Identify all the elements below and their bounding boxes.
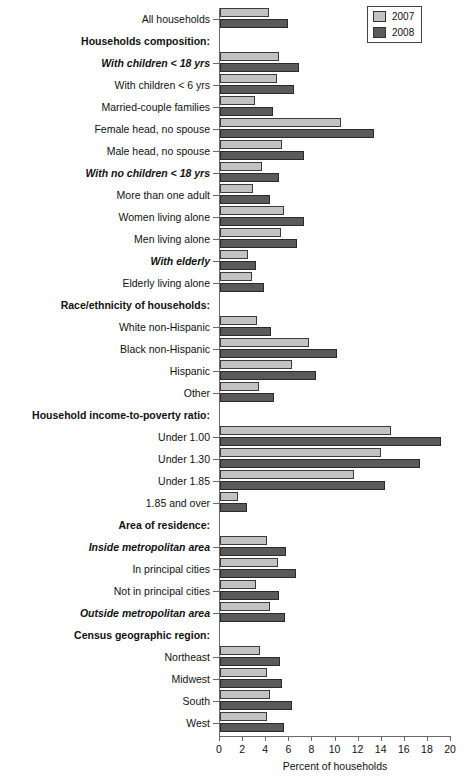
bar-2008 <box>220 151 304 160</box>
row-bars <box>220 250 256 270</box>
bar-2007 <box>220 382 259 391</box>
row-bars <box>220 690 292 710</box>
bar-2008 <box>220 679 282 688</box>
row-tick <box>213 393 219 394</box>
legend-swatch-2007 <box>373 11 386 22</box>
bar-2007 <box>220 74 277 83</box>
row-bars <box>220 470 385 490</box>
x-tick-mark <box>450 736 451 741</box>
x-tick-label: 20 <box>444 743 456 755</box>
bar-2008 <box>220 723 284 732</box>
row-bars <box>220 316 271 336</box>
row-label: Outside metropolitan area <box>0 607 210 619</box>
row-tick <box>213 371 219 372</box>
row-bars <box>220 228 297 248</box>
chart-legend: 2007 2008 <box>367 6 422 43</box>
row-label: Women living alone <box>0 211 210 223</box>
bar-2008 <box>220 217 304 226</box>
row-tick <box>213 129 219 130</box>
bar-2008 <box>220 261 256 270</box>
row-label: In principal cities <box>0 563 210 575</box>
row-bars <box>220 712 284 732</box>
bar-2007 <box>220 470 354 479</box>
x-tick-label: 12 <box>352 743 364 755</box>
row-bars <box>220 8 288 28</box>
row-bars <box>220 140 304 160</box>
bar-2008 <box>220 657 280 666</box>
bar-2007 <box>220 250 248 259</box>
row-label: West <box>0 717 210 729</box>
x-tick-mark <box>404 736 405 741</box>
bar-2007 <box>220 338 309 347</box>
row-tick <box>213 195 219 196</box>
row-label: Male head, no spouse <box>0 145 210 157</box>
bar-2008 <box>220 371 316 380</box>
x-tick-mark <box>427 736 428 741</box>
legend-item-2008: 2008 <box>373 27 414 38</box>
row-tick <box>213 261 219 262</box>
row-tick <box>213 701 219 702</box>
bar-2008 <box>220 437 441 446</box>
x-tick-mark <box>358 736 359 741</box>
bar-2008 <box>220 283 264 292</box>
row-label: Men living alone <box>0 233 210 245</box>
x-tick-label: 14 <box>375 743 387 755</box>
row-tick <box>213 173 219 174</box>
row-tick <box>213 151 219 152</box>
row-label: Household income-to-poverty ratio: <box>0 409 210 421</box>
legend-label-2008: 2008 <box>392 27 414 38</box>
bar-2007 <box>220 206 284 215</box>
bar-2008 <box>220 85 294 94</box>
x-tick-mark <box>219 736 220 741</box>
row-tick <box>213 217 219 218</box>
x-tick-mark <box>335 736 336 741</box>
row-label: With children < 6 yrs <box>0 79 210 91</box>
x-tick-label: 8 <box>308 743 314 755</box>
row-bars <box>220 118 374 138</box>
row-label: Not in principal cities <box>0 585 210 597</box>
bar-2007 <box>220 492 238 501</box>
bar-2008 <box>220 701 292 710</box>
bar-2007 <box>220 272 252 281</box>
bar-2008 <box>220 349 337 358</box>
x-tick-label: 10 <box>329 743 341 755</box>
row-tick <box>213 437 219 438</box>
x-tick-label: 16 <box>398 743 410 755</box>
row-label: Northeast <box>0 651 210 663</box>
row-tick <box>213 459 219 460</box>
row-label: Race/ethnicity of households: <box>0 299 210 311</box>
row-tick <box>213 19 219 20</box>
x-tick-mark <box>265 736 266 741</box>
row-tick <box>213 547 219 548</box>
x-tick-mark <box>242 736 243 741</box>
row-label: With children < 18 yrs <box>0 57 210 69</box>
row-bars <box>220 360 316 380</box>
x-tick-label: 6 <box>285 743 291 755</box>
bar-2007 <box>220 448 381 457</box>
legend-item-2007: 2007 <box>373 11 414 22</box>
x-tick-mark <box>311 736 312 741</box>
bar-2008 <box>220 613 285 622</box>
x-tick-label: 18 <box>421 743 433 755</box>
row-bars <box>220 184 270 204</box>
row-tick <box>213 591 219 592</box>
row-bars <box>220 580 279 600</box>
row-bars <box>220 206 304 226</box>
row-label: South <box>0 695 210 707</box>
x-tick-mark <box>288 736 289 741</box>
row-label: White non-Hispanic <box>0 321 210 333</box>
bar-2007 <box>220 184 253 193</box>
row-label: Female head, no spouse <box>0 123 210 135</box>
row-label: Under 1.00 <box>0 431 210 443</box>
row-tick <box>213 85 219 86</box>
row-bars <box>220 668 282 688</box>
chart-row: West <box>0 710 464 736</box>
row-bars <box>220 448 420 468</box>
row-bars <box>220 382 274 402</box>
bar-2007 <box>220 426 391 435</box>
row-label: Married-couple families <box>0 101 210 113</box>
row-label: Under 1.30 <box>0 453 210 465</box>
row-tick <box>213 283 219 284</box>
bar-2008 <box>220 129 374 138</box>
x-tick-label: 4 <box>262 743 268 755</box>
